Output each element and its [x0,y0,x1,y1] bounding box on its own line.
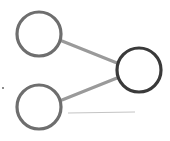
edge-bottom-to-output [62,78,117,100]
input-node-top [17,12,61,56]
stray-dot [2,87,4,89]
output-node [117,48,161,92]
edge-top-to-output [62,41,117,63]
input-node-bottom [17,85,61,129]
faint-baseline [68,112,135,113]
network-diagram [0,0,170,141]
